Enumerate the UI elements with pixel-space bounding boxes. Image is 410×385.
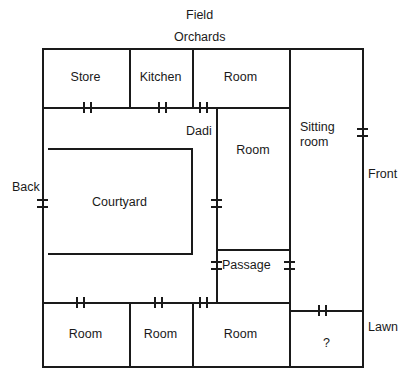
room-label-room-middle: Room xyxy=(216,143,290,158)
exterior-label-lawn: Lawn xyxy=(368,320,398,335)
door-room-bottom-3 xyxy=(199,297,208,308)
room-label-room-bottom-3: Room xyxy=(192,327,289,342)
wall-room-middle-bottom xyxy=(216,249,290,251)
door-front xyxy=(357,128,368,137)
wall-outer-right xyxy=(362,48,364,368)
door-room-top xyxy=(199,102,208,113)
room-label-courtyard: Courtyard xyxy=(48,195,191,210)
wall-outer-top xyxy=(42,48,364,50)
room-label-store: Store xyxy=(42,70,129,85)
room-label-unknown-room: ? xyxy=(289,336,364,351)
wall-courtyard-bottom xyxy=(48,253,193,255)
floor-plan-diagram: Field Orchards Back Front Lawn Store Kit… xyxy=(0,0,410,385)
wall-courtyard-top xyxy=(48,148,193,150)
door-passage-w xyxy=(211,261,222,270)
exterior-label-field: Field xyxy=(186,8,213,23)
room-label-room-top: Room xyxy=(192,70,289,85)
wall-outer-left xyxy=(42,48,44,368)
door-room-bottom-2 xyxy=(154,297,163,308)
wall-outer-bottom xyxy=(42,366,364,368)
wall-courtyard-east xyxy=(191,148,193,255)
door-store xyxy=(83,102,92,113)
door-back xyxy=(37,199,48,208)
exterior-label-orchards: Orchards xyxy=(174,30,225,45)
room-label-kitchen: Kitchen xyxy=(129,70,192,85)
door-unknown-room xyxy=(318,305,327,316)
exterior-label-back: Back xyxy=(12,180,40,195)
door-passage-e xyxy=(284,261,295,270)
door-courtyard-e xyxy=(211,199,222,208)
room-label-room-bottom-1: Room xyxy=(42,327,129,342)
room-label-room-bottom-2: Room xyxy=(129,327,192,342)
sitting-room-label-line1: Sitting xyxy=(300,120,335,134)
door-kitchen xyxy=(158,102,167,113)
door-room-bottom-1 xyxy=(76,297,85,308)
sitting-room-label-line2: room xyxy=(300,135,328,149)
exterior-label-front: Front xyxy=(368,167,397,182)
room-label-dadi: Dadi xyxy=(186,124,212,139)
room-label-passage: Passage xyxy=(222,258,271,273)
room-label-sitting-room: Sitting room xyxy=(300,120,364,150)
